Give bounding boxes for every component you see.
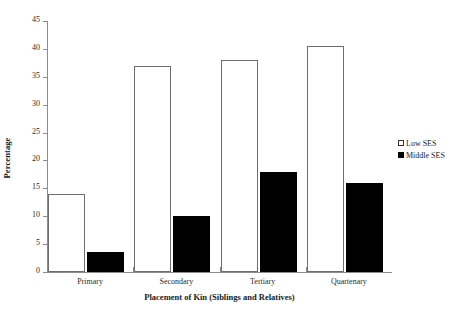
y-axis-tick-label: 30 bbox=[32, 99, 40, 108]
plot-area: 051015202530354045 PrimarySecondaryTerti… bbox=[47, 21, 392, 272]
y-axis-tick-label: 0 bbox=[36, 266, 40, 275]
chart-legend: Low SESMiddle SES bbox=[398, 137, 462, 161]
bar-group bbox=[47, 21, 133, 272]
legend-item-label: Low SES bbox=[406, 139, 436, 148]
bar-low-ses bbox=[307, 46, 344, 272]
y-axis-tick-label: 25 bbox=[32, 127, 40, 136]
bar-group bbox=[306, 21, 392, 272]
x-axis-tick-label: Quartenary bbox=[306, 277, 392, 286]
y-axis-tick-label: 15 bbox=[32, 182, 40, 191]
y-axis-tick-label: 5 bbox=[36, 238, 40, 247]
filled-square-icon bbox=[398, 152, 404, 158]
x-axis-tick-label: Tertiary bbox=[220, 277, 306, 286]
bar-chart-figure: Percentage 051015202530354045 PrimarySec… bbox=[0, 0, 463, 315]
y-axis-tick-label: 10 bbox=[32, 210, 40, 219]
y-axis-tick-label: 40 bbox=[32, 43, 40, 52]
x-axis-line bbox=[47, 272, 392, 273]
bar-middle-ses bbox=[87, 252, 124, 272]
x-axis-tick-label: Primary bbox=[47, 277, 133, 286]
bar-low-ses bbox=[221, 60, 258, 272]
bar-low-ses bbox=[134, 66, 171, 272]
bar-middle-ses bbox=[260, 172, 297, 272]
bar-middle-ses bbox=[173, 216, 210, 272]
x-axis-title: Placement of Kin (Siblings and Relatives… bbox=[47, 292, 392, 302]
bar-group bbox=[220, 21, 306, 272]
x-axis-tick-label: Secondary bbox=[133, 277, 219, 286]
bar-group bbox=[133, 21, 219, 272]
legend-item: Low SES bbox=[398, 137, 462, 149]
y-axis-tick-label: 45 bbox=[32, 15, 40, 24]
y-axis-tick-mark bbox=[43, 272, 47, 273]
legend-item: Middle SES bbox=[398, 149, 462, 161]
y-axis-title: Percentage bbox=[2, 108, 16, 208]
y-axis-tick-label: 35 bbox=[32, 71, 40, 80]
open-square-icon bbox=[398, 140, 404, 146]
legend-item-label: Middle SES bbox=[406, 151, 445, 160]
bar-middle-ses bbox=[346, 183, 383, 272]
y-axis-tick-label: 20 bbox=[32, 154, 40, 163]
bar-low-ses bbox=[48, 194, 85, 272]
